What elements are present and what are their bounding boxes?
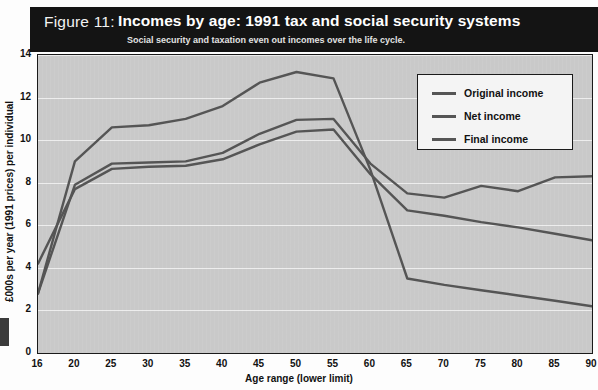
figure-subtitle: Social security and taxation even out in… [127,35,405,45]
x-axis-tick-label: 75 [467,358,493,369]
x-axis-tick-label: 85 [541,358,567,369]
x-axis-tick-label: 50 [283,358,309,369]
figure-header: Figure 11: Incomes by age: 1991 tax and … [30,7,598,52]
x-axis-tick-label: 55 [319,358,345,369]
y-axis-tick-label: 14 [5,48,31,59]
legend-swatch [432,92,456,95]
legend-item: Net income [432,109,521,123]
legend-item: Final income [432,132,528,146]
x-axis-tick-label: 65 [393,358,419,369]
y-axis-label: £000s per year (1991 prices) per individ… [4,82,15,322]
figure-container: Figure 11: Incomes by age: 1991 tax and … [0,0,598,390]
x-axis-tick-label: 60 [356,358,382,369]
figure-number: Figure 11: [44,13,115,31]
x-axis-tick-label: 30 [135,358,161,369]
legend-item: Original income [432,86,543,100]
x-axis-tick-label: 45 [246,358,272,369]
x-axis-tick-label: 20 [61,358,87,369]
y-axis-label-wrap: £000s per year (1991 prices) per individ… [0,0,1,1]
y-axis-tick-label: 0 [5,346,31,357]
x-axis-tick-label: 90 [578,358,598,369]
legend: Original incomeNet incomeFinal income [417,74,573,150]
x-axis-tick-label: 16 [24,358,50,369]
legend-label: Original income [464,87,543,99]
x-axis-tick-label: 25 [98,358,124,369]
x-axis-label: Age range (lower limit) [0,373,598,384]
x-axis-tick-label: 70 [430,358,456,369]
legend-swatch [432,115,456,118]
page-edge-artifact [0,318,9,346]
legend-swatch [432,138,456,141]
figure-title: Incomes by age: 1991 tax and social secu… [118,12,520,30]
legend-label: Final income [464,133,528,145]
x-axis-tick-label: 35 [172,358,198,369]
x-axis-tick-label: 40 [209,358,235,369]
x-axis-tick-label: 80 [504,358,530,369]
legend-label: Net income [464,110,521,122]
